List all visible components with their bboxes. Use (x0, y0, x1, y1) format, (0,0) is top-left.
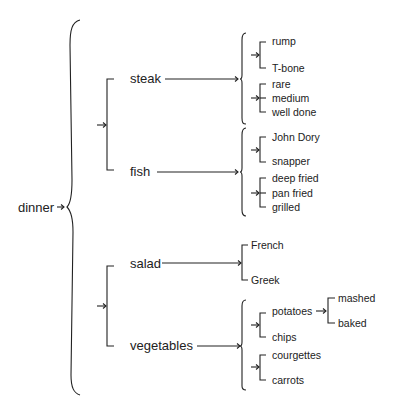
node-medium: medium (272, 93, 309, 104)
node-chips: chips (272, 332, 297, 343)
node-french: French (251, 240, 284, 251)
node-steak: steak (130, 72, 161, 85)
dinner-menu-diagram: dinner steak fish salad vegetables rump … (0, 0, 394, 413)
node-deep-fried: deep fried (272, 173, 319, 184)
node-baked: baked (338, 318, 367, 329)
node-well-done: well done (272, 107, 316, 118)
node-pan-fried: pan fried (272, 188, 313, 199)
node-rump: rump (272, 36, 296, 47)
node-potatoes: potatoes (272, 306, 312, 317)
main-brace (67, 20, 80, 395)
steak-fish-bracket (107, 79, 114, 170)
node-vegetables: vegetables (130, 339, 193, 352)
node-carrots: carrots (272, 375, 304, 386)
node-fish: fish (130, 165, 150, 178)
node-john-dory: John Dory (272, 132, 320, 143)
node-mashed: mashed (338, 293, 375, 304)
node-snapper: snapper (272, 156, 310, 167)
node-salad: salad (130, 257, 161, 270)
salad-veg-bracket (107, 266, 114, 346)
node-rare: rare (272, 79, 291, 90)
node-greek: Greek (251, 275, 280, 286)
node-tbone: T-bone (272, 63, 305, 74)
node-grilled: grilled (272, 202, 300, 213)
connector-lines (0, 0, 394, 413)
node-dinner: dinner (18, 201, 54, 214)
node-courgettes: courgettes (272, 350, 321, 361)
